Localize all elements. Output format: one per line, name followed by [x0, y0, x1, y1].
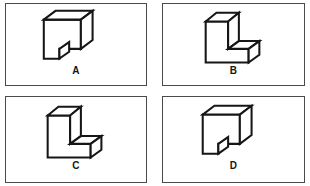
figure-sheet: A B — [0, 0, 310, 186]
panel-c[interactable]: C — [5, 96, 147, 183]
panel-a[interactable]: A — [5, 3, 147, 86]
panel-d[interactable]: D — [162, 96, 305, 183]
panel-c-label: C — [6, 161, 146, 171]
panel-a-label: A — [6, 66, 146, 76]
panel-d-label: D — [163, 161, 304, 171]
panel-b[interactable]: B — [162, 3, 305, 86]
panel-b-label: B — [163, 66, 304, 76]
